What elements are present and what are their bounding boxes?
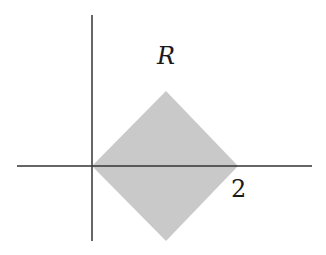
region-label: R [156, 42, 175, 70]
x-tick-label-2: 2 [231, 175, 246, 203]
region-diagram: R 2 [0, 0, 326, 255]
